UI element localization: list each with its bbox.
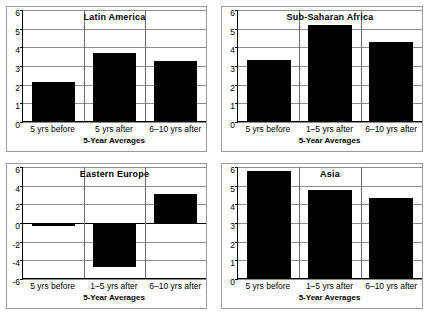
plot-wrapper: Asia: [237, 167, 422, 279]
plot-area: Eastern Europe: [22, 167, 206, 279]
panel-frame: 0123456Latin America5 yrs before5 yrs af…: [6, 6, 207, 152]
panel-title: Asia: [238, 169, 422, 179]
y-tick-label: -2: [12, 240, 20, 249]
x-tick-label: 1–5 yrs after: [83, 282, 144, 291]
gridline: [23, 279, 206, 280]
x-tick-label: 5 yrs before: [22, 125, 83, 134]
bar-cell: [238, 167, 299, 278]
gridline: [238, 122, 422, 123]
plot-wrapper: Eastern Europe: [22, 167, 206, 279]
panel-frame: 0123456Sub-Saharan Africa5 yrs before1–5…: [221, 6, 423, 152]
bar-cell: [145, 167, 206, 278]
y-tick-mark: [20, 279, 23, 280]
panel-frame: 6420-2-4-6Eastern Europe5 yrs before1–5 …: [6, 163, 207, 309]
x-tick-label: 5 yrs before: [237, 282, 299, 291]
panel-title: Latin America: [23, 12, 206, 22]
chart-panel-2: 0123456Sub-Saharan Africa5 yrs before1–5…: [215, 0, 431, 157]
y-tick-mark: [235, 279, 238, 280]
bar-cell: [84, 167, 145, 278]
panel-title: Eastern Europe: [23, 169, 206, 179]
panel-title: Sub-Saharan Africa: [238, 12, 422, 22]
x-tick-label: 5 yrs before: [237, 125, 299, 134]
plot-area: Sub-Saharan Africa: [237, 10, 422, 122]
bar-cell: [361, 10, 422, 121]
bar: [93, 223, 137, 267]
plot-row: 0123456Asia: [222, 164, 422, 279]
bar-cell: [23, 10, 84, 121]
bar: [369, 198, 413, 279]
bar-cell: [299, 10, 360, 121]
bar: [308, 190, 352, 279]
bar-cell: [23, 167, 84, 278]
y-tick-label: -4: [12, 259, 20, 268]
bar-cell: [145, 10, 206, 121]
gridline: [23, 122, 206, 123]
plot-wrapper: Latin America: [22, 10, 206, 122]
plot-wrapper: Sub-Saharan Africa: [237, 10, 422, 122]
bar-cell: [238, 10, 299, 121]
x-tick-label: 6–10 yrs after: [145, 125, 206, 134]
x-tick-label: 6–10 yrs after: [360, 282, 422, 291]
y-tick-label: -6: [12, 278, 20, 287]
bar-series: [238, 167, 422, 278]
bar-series: [23, 167, 206, 278]
x-tick-label: 6–10 yrs after: [360, 125, 422, 134]
x-axis-title: 5-Year Averages: [237, 293, 422, 302]
y-tick-mark: [235, 122, 238, 123]
plot-row: 6420-2-4-6Eastern Europe: [7, 164, 206, 279]
x-axis-labels: 5 yrs before5 yrs after6–10 yrs after: [22, 125, 206, 134]
bar: [154, 61, 198, 122]
bar: [369, 42, 413, 122]
bar: [308, 25, 352, 122]
bar-cell: [361, 167, 422, 278]
gridline: [238, 279, 422, 280]
chart-panel-4: 0123456Asia5 yrs before1–5 yrs after6–10…: [215, 157, 431, 314]
x-tick-label: 1–5 yrs after: [299, 125, 361, 134]
x-tick-label: 1–5 yrs after: [299, 282, 361, 291]
bar-series: [23, 10, 206, 121]
bar: [247, 60, 291, 122]
y-tick-mark: [20, 122, 23, 123]
x-tick-label: 5 yrs before: [22, 282, 83, 291]
chart-panel-3: 6420-2-4-6Eastern Europe5 yrs before1–5 …: [0, 157, 215, 314]
bar: [154, 194, 198, 223]
x-axis-labels: 5 yrs before1–5 yrs after6–10 yrs after: [22, 282, 206, 291]
bar-cell: [299, 167, 360, 278]
bar-series: [238, 10, 422, 121]
bar-cell: [84, 10, 145, 121]
plot-area: Latin America: [22, 10, 206, 122]
x-axis-title: 5-Year Averages: [22, 136, 206, 145]
bar: [93, 53, 137, 122]
x-tick-label: 5 yrs after: [83, 125, 144, 134]
bar: [32, 223, 76, 226]
plot-row: 0123456Latin America: [7, 7, 206, 122]
x-axis-labels: 5 yrs before1–5 yrs after6–10 yrs after: [237, 282, 422, 291]
chart-panel-1: 0123456Latin America5 yrs before5 yrs af…: [0, 0, 215, 157]
x-axis-labels: 5 yrs before1–5 yrs after6–10 yrs after: [237, 125, 422, 134]
x-axis-title: 5-Year Averages: [237, 136, 422, 145]
plot-area: Asia: [237, 167, 422, 279]
panel-frame: 0123456Asia5 yrs before1–5 yrs after6–10…: [221, 163, 423, 309]
bar: [247, 171, 291, 279]
plot-row: 0123456Sub-Saharan Africa: [222, 7, 422, 122]
bar: [32, 82, 76, 122]
x-tick-label: 6–10 yrs after: [145, 282, 206, 291]
chart-grid: 0123456Latin America5 yrs before5 yrs af…: [0, 0, 431, 314]
x-axis-title: 5-Year Averages: [22, 293, 206, 302]
